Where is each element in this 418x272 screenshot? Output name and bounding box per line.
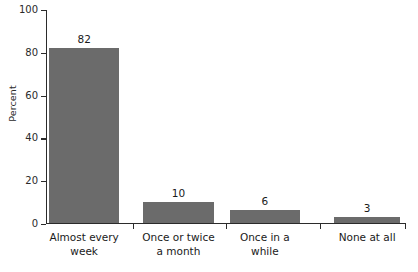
y-tick-mark <box>41 53 46 54</box>
y-tick-mark <box>41 181 46 182</box>
bar <box>143 202 214 223</box>
y-tick-label: 0 <box>12 219 38 229</box>
y-tick-label: 20 <box>12 176 38 186</box>
x-axis-category-labels: Almost everyweekOnce or twicea monthOnce… <box>46 230 406 272</box>
x-tick-mark <box>133 224 134 229</box>
bar-value-label: 6 <box>230 196 301 207</box>
y-tick-label: 40 <box>12 133 38 143</box>
bar <box>334 217 400 223</box>
y-tick-mark <box>41 10 46 11</box>
bar-value-label: 82 <box>49 34 120 45</box>
x-tick-mark <box>405 224 406 229</box>
y-tick-label: 60 <box>12 91 38 101</box>
y-axis-line <box>46 10 47 224</box>
category-label-line: None at all <box>316 230 418 244</box>
y-tick-mark <box>41 224 46 225</box>
category-label-line: while <box>212 244 319 258</box>
category-label-line: Once in a <box>212 230 319 244</box>
y-tick-label: 80 <box>12 48 38 58</box>
bar-value-label: 3 <box>334 203 400 214</box>
x-tick-mark <box>320 224 321 229</box>
category-label: None at all <box>316 230 418 244</box>
bar <box>49 48 120 223</box>
bar-chart: Percent 100806040200 821063 Almost every… <box>0 0 418 272</box>
x-tick-mark <box>226 224 227 229</box>
category-label-line: Almost every <box>31 230 138 244</box>
y-tick-mark <box>41 96 46 97</box>
category-label-line: week <box>31 244 138 258</box>
bar <box>230 210 301 223</box>
category-label: Almost everyweek <box>31 230 138 258</box>
y-tick-label: 100 <box>12 5 38 15</box>
bar-value-label: 10 <box>143 188 214 199</box>
y-tick-mark <box>41 138 46 139</box>
plot-area: 821063 <box>46 10 406 224</box>
category-label: Once in awhile <box>212 230 319 258</box>
